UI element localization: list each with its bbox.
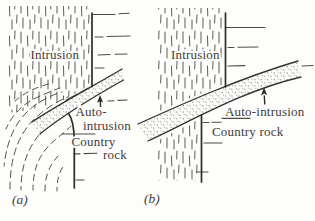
figure-canvas: Intrusion Auto- intrusion Country rock I… <box>0 0 315 221</box>
bedding-dash <box>107 36 130 37</box>
panel-a <box>4 6 130 191</box>
intrusion-label-a: Intrusion <box>31 47 80 62</box>
intrusion-label-b: Intrusion <box>171 47 220 62</box>
panel-b <box>138 8 313 182</box>
arrow-shaft-b <box>264 96 265 105</box>
bedding-dash <box>119 13 129 14</box>
auto-intrusion-label-a-line2: intrusion <box>83 118 131 133</box>
bedding-dash <box>302 66 313 67</box>
flow-line <box>57 165 64 191</box>
panel-b-caption: (b) <box>144 191 160 206</box>
flow-line <box>45 156 58 191</box>
auto-intrusion-label-b: Auto-intrusion <box>225 104 305 119</box>
bedding-dash <box>98 55 110 56</box>
country-rock-label-b: Country rock <box>212 124 284 139</box>
captions: (a) (b) <box>12 191 160 207</box>
intrusion-contact-lower-a <box>69 114 75 189</box>
country-rock-label-a-line2: rock <box>103 147 127 162</box>
panel-a-caption: (a) <box>12 192 28 207</box>
auto-intrusion-figure: Intrusion Auto- intrusion Country rock I… <box>0 0 315 221</box>
